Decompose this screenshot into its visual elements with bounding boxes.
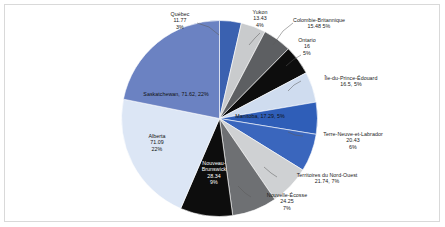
pie-label-nouveau-brunswick: Nouveau- Brunswick 28.34 9% xyxy=(191,160,237,186)
pie-label-alberta-percent: 22% xyxy=(137,146,177,152)
pie-label-manitoba-text: Manitoba, 17.29, 5% xyxy=(217,113,303,119)
pie-label-nouvelle-ecosse-percent: 7% xyxy=(253,205,321,211)
pie-label-territoires-du-nord-ouest-value: 21.74, 7% xyxy=(281,178,373,184)
pie-label-ontario-percent: 5% xyxy=(289,50,325,56)
pie-label-terre-neuve-et-labrador: Terre-Neuve-et-Labrador 20.43 6% xyxy=(305,131,401,150)
pie-label-nouvelle-ecosse: Nouvelle-Écosse 24.25 7% xyxy=(253,192,321,211)
pie-label-quebec-percent: 3% xyxy=(157,24,203,30)
pie-label-terre-neuve-et-labrador-percent: 6% xyxy=(305,144,401,150)
pie-label-ile-du-prince-edouard: Île-du-Prince-Édouard 16.5, 5% xyxy=(305,75,397,88)
pie-label-quebec: Québec 11.77 3% xyxy=(157,11,203,30)
pie-label-saskatchewan-text: Saskatchewan, 71.62, 22% xyxy=(133,91,219,97)
pie-label-colombie-britannique: Colombie-Britannique 15.48 5% xyxy=(293,17,345,30)
pie-label-yukon: Yukon 13.43 4% xyxy=(237,9,283,28)
pie-label-ontario: Ontario 16 5% xyxy=(289,37,325,56)
pie-label-nouveau-brunswick-percent: 9% xyxy=(191,179,237,185)
pie-label-alberta: Alberta 71.09 22% xyxy=(137,133,177,152)
pie-label-manitoba: Manitoba, 17.29, 5% xyxy=(217,113,303,119)
pie-label-colombie-britannique-value: 15.48 5% xyxy=(293,23,345,29)
chart-frame: Québec 11.77 3% Yukon 13.43 4% Colombie-… xyxy=(4,4,440,222)
pie-label-saskatchewan: Saskatchewan, 71.62, 22% xyxy=(133,91,219,97)
pie-label-yukon-percent: 4% xyxy=(237,22,283,28)
pie-label-ile-du-prince-edouard-value: 16.5, 5% xyxy=(305,81,397,87)
pie-chart-plot-area: Québec 11.77 3% Yukon 13.43 4% Colombie-… xyxy=(5,5,441,223)
pie-label-territoires-du-nord-ouest: Territoires du Nord-Ouest 21.74, 7% xyxy=(281,172,373,185)
